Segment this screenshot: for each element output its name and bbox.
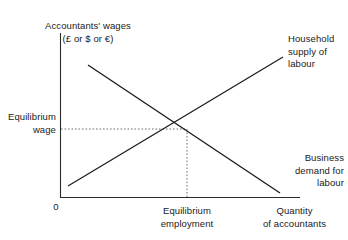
y-axis-title: Accountants' wages (£ or $ or €) xyxy=(2,20,174,45)
demand-curve-label: Business demand for labour xyxy=(240,152,344,190)
equilibrium-wage-label: Equilibrium wage xyxy=(0,111,56,136)
x-axis-title: Quantity of accountants xyxy=(243,205,346,230)
supply-curve-label: Household supply of labour xyxy=(288,33,348,71)
supply-demand-diagram: Accountants' wages (£ or $ or €) Equilib… xyxy=(0,0,348,240)
origin-label: 0 xyxy=(49,201,63,214)
equilibrium-employment-label: Equilibrium employment xyxy=(130,205,244,230)
